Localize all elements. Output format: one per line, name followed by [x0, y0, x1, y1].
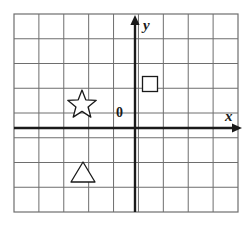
plotted-shapes: [68, 77, 158, 183]
origin-label: 0: [116, 106, 123, 120]
grid-lines: [14, 14, 238, 212]
x-axis-arrowhead: [232, 123, 242, 132]
y-axis-label: y: [143, 18, 150, 33]
coordinate-plane-figure: y x 0: [0, 0, 252, 226]
x-axis-label: x: [225, 109, 233, 124]
square-shape: [143, 77, 158, 92]
triangle-shape: [71, 162, 95, 182]
plot-svg: [0, 0, 252, 226]
